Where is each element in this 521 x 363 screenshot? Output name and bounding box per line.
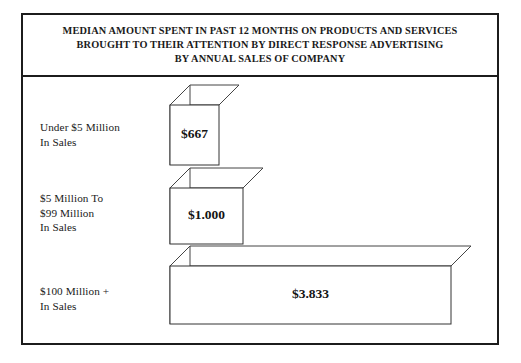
chart-frame: MEDIAN AMOUNT SPENT IN PAST 12 MONTHS ON…: [21, 13, 499, 345]
bars-group: $667 $1.000 $3.833: [23, 77, 501, 345]
bar-0-value-label: $667: [181, 126, 208, 141]
bar-2-value-label: $3.833: [292, 286, 329, 301]
bar-2-top-face: [170, 246, 471, 266]
chart-title-band: MEDIAN AMOUNT SPENT IN PAST 12 MONTHS ON…: [23, 15, 497, 77]
bar-1-value-label: $1.000: [188, 207, 225, 222]
page-title: MEDIAN AMOUNT SPENT IN PAST 12 MONTHS ON…: [53, 24, 468, 67]
plot-area: Under $5 Million In Sales $5 Million To …: [23, 77, 497, 345]
bar-1[interactable]: $1.000: [170, 168, 263, 244]
bar-0[interactable]: $667: [170, 85, 239, 165]
bar-2[interactable]: $3.833: [170, 246, 471, 324]
